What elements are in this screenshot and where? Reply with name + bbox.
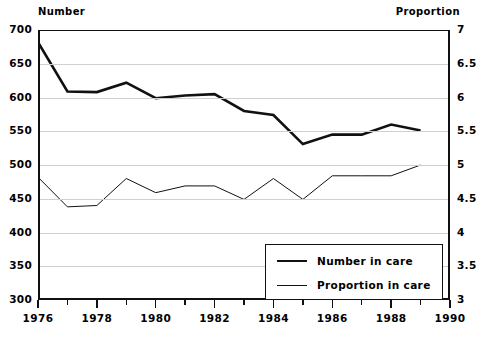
x-axis-tick [273,300,275,308]
gridline [38,64,450,65]
gridline [38,131,450,132]
x-axis-tick [67,300,69,305]
left-tick-label: 500 [9,158,32,170]
x-axis-tick [420,300,422,305]
right-tick-label: 5.5 [457,124,477,136]
x-axis-tick-label: 1976 [23,312,54,324]
x-axis-tick [449,300,451,308]
x-axis-tick-label: 1984 [258,312,289,324]
x-axis-tick-label: 1982 [199,312,230,324]
x-axis-tick-label: 1980 [140,312,171,324]
x-axis-tick-label: 1978 [81,312,112,324]
x-axis-tick [37,300,39,308]
x-axis-tick [184,300,186,305]
left-tick-label: 650 [9,57,32,69]
right-axis-header: Proportion [396,6,460,17]
legend-label-number-in-care: Number in care [317,255,413,267]
right-tick-label: 5 [457,158,465,170]
right-tick-label: 4 [457,226,465,238]
x-axis-tick-label: 1988 [376,312,407,324]
series-line [38,165,421,207]
x-axis-tick [243,300,245,305]
x-axis-tick [155,300,157,308]
x-axis-tick [361,300,363,305]
x-axis-tick [302,300,304,305]
gridline [38,233,450,234]
legend-line-icon-thin [277,279,307,291]
left-tick-label: 600 [9,91,32,103]
left-tick-label: 350 [9,259,32,271]
left-axis-header: Number [38,6,85,17]
x-axis-tick [126,300,128,305]
right-tick-label: 7 [457,23,465,35]
x-axis-tick [390,300,392,308]
chart-legend: Number in care Proportion in care [265,244,443,300]
legend-item-proportion-in-care: Proportion in care [266,273,442,297]
gridline [38,165,450,166]
right-tick-label: 3.5 [457,259,477,271]
left-tick-label: 300 [9,293,32,305]
right-tick-label: 3 [457,293,465,305]
series-line [38,42,421,144]
x-axis-tick-label: 1986 [317,312,348,324]
left-tick-label: 550 [9,124,32,136]
chart-figure: Number Proportion 3003504004505005506006… [0,0,487,338]
legend-item-number-in-care: Number in care [266,249,442,273]
left-tick-label: 450 [9,192,32,204]
right-tick-label: 6.5 [457,57,477,69]
gridline [38,199,450,200]
x-axis-tick [96,300,98,308]
x-axis-tick [214,300,216,308]
x-axis-tick [332,300,334,308]
right-tick-label: 4.5 [457,192,477,204]
left-tick-label: 400 [9,226,32,238]
legend-label-proportion-in-care: Proportion in care [317,279,431,291]
x-axis-tick-label: 1990 [435,312,466,324]
gridline [38,98,450,99]
legend-line-icon-thick [277,255,307,267]
left-tick-label: 700 [9,23,32,35]
right-tick-label: 6 [457,91,465,103]
